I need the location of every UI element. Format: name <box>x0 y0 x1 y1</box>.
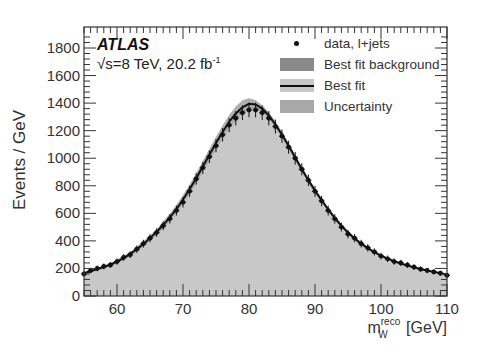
x-axis-label-sub: W <box>378 329 387 340</box>
energy-text: √s=8 TeV, 20.2 fb <box>97 55 212 72</box>
energy-lumi-label: √s=8 TeV, 20.2 fb-1 <box>97 55 220 72</box>
data-marker-icon <box>280 37 314 50</box>
x-tick-label: 80 <box>229 300 269 317</box>
x-tick-label: 70 <box>163 300 203 317</box>
legend-item-data: data, l+jets <box>280 33 440 54</box>
y-tick-label: 400 <box>30 232 80 249</box>
legend-item-best-fit: Best fit <box>280 75 440 96</box>
x-axis-label-unit: [GeV] <box>402 319 447 336</box>
best-fit-swatch-icon <box>280 79 314 92</box>
y-tick-label: 1800 <box>30 39 80 56</box>
best-fit-fill <box>84 104 447 296</box>
x-axis-label-sup: reco <box>381 316 400 327</box>
y-tick-label: 800 <box>30 177 80 194</box>
x-tick-label: 90 <box>295 300 335 317</box>
y-tick-label: 1200 <box>30 122 80 139</box>
uncertainty-swatch-icon <box>280 100 314 113</box>
energy-sup: -1 <box>212 55 220 65</box>
x-tick-label: 60 <box>97 300 137 317</box>
y-tick-label: 600 <box>30 204 80 221</box>
legend-item-uncertainty: Uncertainty <box>280 96 440 117</box>
y-tick-label: 1400 <box>30 94 80 111</box>
y-axis-label: Events / GeV <box>10 110 30 210</box>
background-swatch-icon <box>280 58 314 71</box>
legend-label: Best fit <box>324 78 365 93</box>
legend-label: data, l+jets <box>324 36 390 51</box>
legend: data, l+jets Best fit background Best fi… <box>280 33 440 117</box>
legend-item-background: Best fit background <box>280 54 440 75</box>
x-axis-label: mrecoW [GeV] <box>367 318 447 340</box>
atlas-label: ATLAS <box>97 36 149 54</box>
y-tick-label: 1000 <box>30 149 80 166</box>
x-tick-label: 110 <box>427 300 467 317</box>
x-tick-label: 100 <box>361 300 401 317</box>
legend-label: Uncertainty <box>324 99 392 114</box>
y-tick-label: 0 <box>30 287 80 304</box>
y-tick-label: 200 <box>30 259 80 276</box>
legend-label: Best fit background <box>324 57 440 72</box>
y-tick-label: 1600 <box>30 67 80 84</box>
